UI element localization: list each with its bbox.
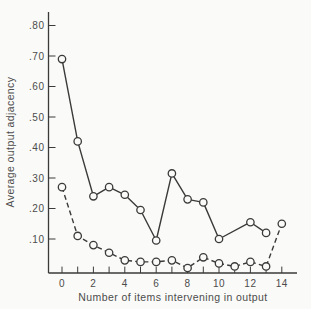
x-tick-label: 14 <box>276 278 288 289</box>
dashed-line-point <box>247 258 254 265</box>
y-axis-title: Average output adjacency <box>4 12 16 272</box>
y-tick-label: .20 <box>29 203 44 214</box>
solid-line-point <box>74 138 81 145</box>
solid-line-point <box>200 199 207 206</box>
x-axis-title: Number of items intervening in output <box>48 291 298 303</box>
y-tick-label: .50 <box>29 112 44 123</box>
tick-marks <box>49 26 282 274</box>
solid-line-point <box>90 193 97 200</box>
dashed-line-point <box>231 263 238 270</box>
y-tick-label: .10 <box>29 234 44 245</box>
y-tick-label: .80 <box>29 20 44 31</box>
solid-line-point <box>137 206 144 213</box>
x-tick-label: 10 <box>213 278 225 289</box>
solid-line-point <box>153 237 160 244</box>
solid-line-point <box>105 183 112 190</box>
dashed-line-point <box>137 258 144 265</box>
y-tick-label: .30 <box>29 173 44 184</box>
x-tick-label: 12 <box>244 278 256 289</box>
solid-line-point <box>121 191 128 198</box>
dashed-line-point <box>74 232 81 239</box>
dashed-line-point <box>105 249 112 256</box>
dashed-line-point <box>278 220 285 227</box>
dashed-line-point <box>215 260 222 267</box>
series-lines <box>62 59 282 268</box>
x-tick-label: 2 <box>90 278 96 289</box>
dashed-line-point <box>168 257 175 264</box>
chart-canvas: 02468101214.10.20.30.40.50.60.70.80 <box>0 0 311 309</box>
y-tick-label: .40 <box>29 142 44 153</box>
dashed-line-point <box>90 241 97 248</box>
chart-figure: 02468101214.10.20.30.40.50.60.70.80 Numb… <box>0 0 311 309</box>
solid-line-point <box>247 219 254 226</box>
y-tick-label: .70 <box>29 51 44 62</box>
solid-line-point <box>215 235 222 242</box>
data-point-markers <box>58 55 285 271</box>
solid-line-point <box>262 229 269 236</box>
dashed-line-point <box>262 263 269 270</box>
x-tick-label: 0 <box>59 278 65 289</box>
solid-line-point <box>168 170 175 177</box>
axes <box>49 12 298 273</box>
dashed-line-point <box>200 254 207 261</box>
dashed-line-point <box>153 258 160 265</box>
solid-line-point <box>58 55 65 62</box>
tick-labels: 02468101214.10.20.30.40.50.60.70.80 <box>29 20 288 289</box>
solid-line-point <box>184 196 191 203</box>
x-tick-label: 8 <box>185 278 191 289</box>
y-tick-label: .60 <box>29 81 44 92</box>
x-tick-label: 6 <box>153 278 159 289</box>
dashed-line-point <box>184 264 191 271</box>
x-tick-label: 4 <box>122 278 128 289</box>
dashed-line-point <box>58 183 65 190</box>
dashed-line-point <box>121 257 128 264</box>
solid-line-path <box>62 59 266 240</box>
